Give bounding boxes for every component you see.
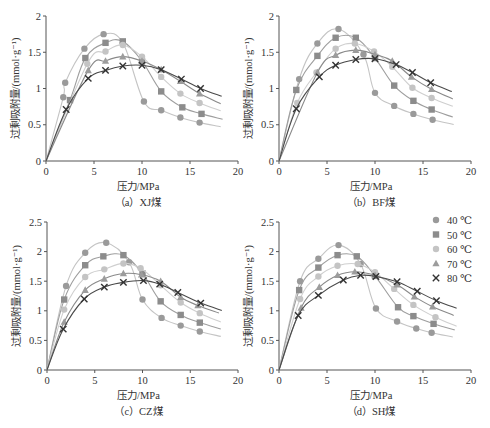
triangle-marker (352, 46, 359, 53)
triangle-marker (429, 303, 436, 310)
square-marker (158, 88, 164, 94)
circle-marker (413, 325, 419, 331)
circle-marker (81, 45, 87, 51)
x-tick-label: 20 (233, 375, 244, 386)
square-marker (332, 35, 338, 41)
panel-c: 00.511.522.505101520压力/MPa过剩吸附量/(mmol·g⁻… (10, 217, 243, 418)
x-tick-label: 0 (276, 375, 281, 386)
square-marker (430, 321, 436, 327)
y-tick-label: 0 (269, 365, 274, 376)
y-tick-label: 1.5 (261, 276, 274, 287)
y-tick-label: 2 (37, 246, 42, 257)
diamond-marker (428, 95, 434, 101)
circle-marker (177, 114, 183, 120)
circle-marker (62, 80, 68, 86)
y-tick-label: 0.5 (29, 335, 42, 346)
fit-curve-60C (47, 263, 221, 370)
x-tick-label: 5 (324, 166, 329, 177)
circle-marker (63, 283, 69, 289)
x-axis-label: 压力/MPa (117, 389, 160, 401)
fit-curve-80C (47, 281, 222, 370)
square-marker (61, 296, 67, 302)
diamond-marker (334, 263, 340, 269)
diamond-marker (84, 61, 90, 67)
cross-marker (414, 288, 420, 294)
chart-canvas: 00.511.5205101520压力/MPa过剩吸附量/(mmol·g⁻¹)（… (0, 0, 490, 428)
panel-caption: （d）SH煤 (347, 405, 397, 417)
legend-item: 40 ℃ (433, 215, 472, 226)
x-axis-label: 压力/MPa (350, 389, 393, 401)
square-marker (334, 252, 340, 258)
square-marker (157, 298, 163, 304)
circle-marker (60, 94, 66, 100)
y-tick-label: 1 (269, 305, 274, 316)
x-tick-label: 5 (324, 375, 329, 386)
diamond-marker (178, 299, 184, 305)
y-axis-label: 过剩吸附量/(mmol·g⁻¹) (10, 245, 23, 347)
square-marker (395, 304, 401, 310)
diamond-marker (432, 314, 438, 320)
circle-marker (373, 305, 379, 311)
diamond-marker (315, 273, 321, 279)
y-tick-label: 0.5 (261, 335, 274, 346)
x-tick-label: 0 (44, 375, 49, 386)
x-tick-label: 5 (91, 166, 96, 177)
diamond-marker (82, 274, 88, 280)
square-marker (120, 252, 126, 258)
circle-marker (158, 315, 164, 321)
square-marker (410, 313, 416, 319)
circle-marker (314, 40, 320, 46)
legend-item: 60 ℃ (433, 244, 472, 255)
circle-marker (197, 328, 203, 334)
triangle-marker (428, 85, 435, 92)
x-tick-label: 0 (43, 166, 48, 177)
circle-marker (410, 111, 416, 117)
y-tick-label: 2.5 (29, 217, 42, 228)
y-tick-label: 1 (269, 83, 274, 94)
fit-curve-50C (279, 254, 455, 370)
square-marker (391, 82, 397, 88)
circle-marker (100, 31, 106, 37)
circle-marker (315, 256, 321, 262)
diamond-marker (410, 302, 416, 308)
x-tick-label: 10 (370, 375, 381, 386)
x-tick-label: 20 (466, 375, 477, 386)
diamond-marker (197, 310, 203, 316)
x-tick-label: 15 (418, 166, 429, 177)
y-tick-label: 2 (36, 11, 41, 22)
cross-marker (433, 298, 439, 304)
panel-caption: （c）CZ煤 (114, 405, 163, 417)
square-marker (296, 287, 302, 293)
diamond-marker (433, 246, 439, 252)
cross-marker (340, 277, 346, 283)
y-tick-label: 2 (269, 11, 274, 22)
x-axis-label: 压力/MPa (117, 180, 160, 192)
diamond-marker (120, 260, 126, 266)
y-tick-label: 0.5 (28, 119, 41, 130)
circle-marker (335, 26, 341, 32)
cross-marker (409, 69, 415, 75)
figure: 00.511.5205101520压力/MPa过剩吸附量/(mmol·g⁻¹)（… (0, 0, 490, 428)
x-tick-label: 15 (185, 375, 196, 386)
circle-marker (158, 107, 164, 113)
circle-marker (433, 217, 439, 223)
square-marker (315, 264, 321, 270)
panel-d: 00.511.522.505101520压力/MPa过剩吸附量/(mmol·g⁻… (242, 217, 476, 418)
square-marker (428, 106, 434, 112)
y-tick-label: 0.5 (261, 119, 274, 130)
y-tick-label: 1.5 (28, 47, 41, 58)
square-marker (82, 55, 88, 61)
x-tick-label: 20 (466, 166, 477, 177)
y-tick-label: 1 (37, 305, 42, 316)
x-tick-label: 10 (137, 166, 148, 177)
x-tick-label: 10 (370, 166, 381, 177)
circle-marker (429, 116, 435, 122)
diamond-marker (409, 85, 415, 91)
panel-caption: （b）BF煤 (347, 196, 396, 208)
cross-marker (197, 85, 203, 91)
circle-marker (335, 242, 341, 248)
panel-b: 00.511.5205101520压力/MPa过剩吸附量/(mmol·g⁻¹)（… (242, 11, 476, 209)
diamond-marker (196, 100, 202, 106)
cross-marker (81, 296, 87, 302)
y-tick-label: 0 (36, 156, 41, 167)
